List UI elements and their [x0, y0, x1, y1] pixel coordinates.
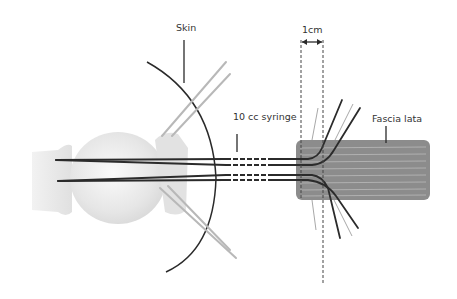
- fascia-lata-strip: [296, 140, 430, 200]
- sutures-dashed: [226, 159, 272, 180]
- syringe-label: 10 cc syringe: [233, 111, 297, 122]
- skin-label: Skin: [176, 22, 196, 33]
- fascia-label: Fascia lata: [372, 113, 422, 124]
- fascia-lata-harvest-diagram: Skin Fascia lata: [0, 0, 457, 299]
- dimension-label: 1cm: [302, 24, 323, 35]
